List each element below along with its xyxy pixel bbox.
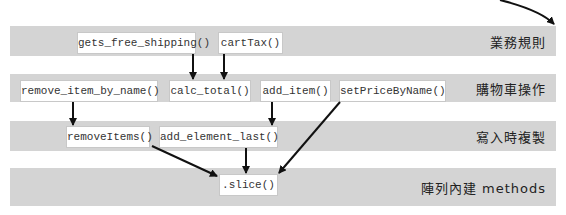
function-remove-item-by-name: remove_item_by_name() bbox=[20, 80, 158, 102]
curved-arrow-icon bbox=[500, 0, 554, 24]
function-calc-total: calc_total() bbox=[169, 80, 251, 102]
function-set-price-by-name: setPriceByName() bbox=[339, 80, 446, 102]
function-remove-items: removeItems() bbox=[66, 126, 150, 148]
layer-label: 陣列內建 methods bbox=[421, 178, 546, 197]
function-add-element-last: add_element_last() bbox=[159, 126, 278, 148]
function-slice: .slice() bbox=[219, 174, 278, 196]
layer-label: 寫入時複製 bbox=[476, 127, 546, 146]
layer-label: 購物車操作 bbox=[476, 79, 546, 98]
function-add-item: add_item() bbox=[260, 80, 331, 102]
function-cart-tax: cartTax() bbox=[218, 32, 283, 54]
layer-array-builtins: 陣列內建 methods bbox=[10, 168, 556, 206]
layer-label: 業務規則 bbox=[490, 32, 546, 51]
function-gets-free-shipping: gets_free_shipping() bbox=[77, 32, 196, 54]
